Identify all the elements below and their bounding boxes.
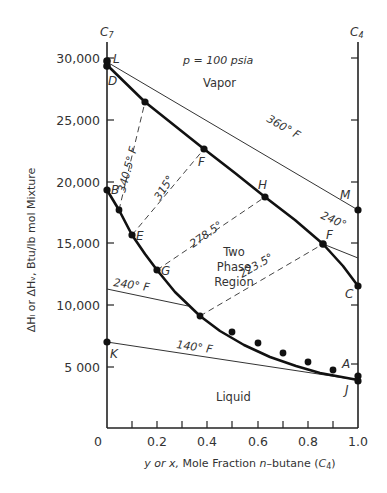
- label-J: J: [343, 383, 349, 397]
- label-L: L: [113, 52, 120, 66]
- tie-340-label: 340.5° F: [115, 145, 140, 194]
- y-tick-labels: 30,000 25,000 20,000 15,000 10,000 5 000: [56, 51, 100, 375]
- y-tick-5000: 5 000: [64, 360, 100, 375]
- label-F-right: F: [326, 228, 334, 242]
- point-liquid-0.8: [305, 359, 312, 366]
- label-M: M: [340, 188, 351, 202]
- label-C: C: [345, 287, 354, 301]
- left-ticks: [107, 58, 114, 367]
- liquid-region-label: Liquid: [216, 390, 251, 404]
- x-tick-0: 0: [94, 434, 102, 449]
- label-E: E: [136, 229, 144, 243]
- c4-axis-label: C4: [350, 25, 363, 40]
- x-tick-0.8: 0.8: [298, 434, 318, 449]
- x-tick-0.4: 0.4: [197, 434, 217, 449]
- y-tick-25000: 25,000: [56, 113, 100, 128]
- vapor-region-label: Vapor: [203, 76, 236, 90]
- x-tick-labels: 0 0.2 0.4 0.6 0.8 1.0: [94, 434, 368, 449]
- isotherm-240-vapor-label: 240°: [319, 209, 348, 232]
- point-K: [103, 338, 110, 345]
- x-tick-0.2: 0.2: [147, 434, 167, 449]
- point-liquid-0.7: [280, 350, 287, 357]
- y-tick-30000: 30,000: [56, 51, 100, 66]
- point-C: [354, 282, 361, 289]
- point-B: [103, 186, 110, 193]
- point-F-upper: [200, 145, 207, 152]
- bottom-ticks: [132, 421, 333, 428]
- x-tick-0.6: 0.6: [248, 434, 268, 449]
- isotherm-360-label: 360° F: [265, 112, 304, 142]
- point-liquid-0.9: [330, 367, 337, 374]
- point-liquid-223: [197, 313, 204, 320]
- point-G: [153, 266, 160, 273]
- point-M: [354, 206, 361, 213]
- x-tick-1.0: 1.0: [348, 434, 368, 449]
- point-E: [128, 231, 135, 238]
- point-vapor-340: [141, 98, 148, 105]
- label-K: K: [110, 347, 119, 361]
- point-liquid-0.5: [229, 329, 236, 336]
- enthalpy-composition-diagram: 30,000 25,000 20,000 15,000 10,000 5 000…: [0, 0, 387, 493]
- label-F-upper: F: [198, 155, 206, 169]
- point-liquid-340: [116, 207, 123, 214]
- tie-315-label: 315°: [152, 173, 177, 202]
- label-G: G: [161, 264, 170, 278]
- c7-axis-label: C7: [100, 25, 114, 40]
- tie-278-label: 278.5°: [187, 219, 225, 251]
- label-H: H: [258, 178, 267, 192]
- point-H: [261, 193, 268, 200]
- pressure-label: p = 100 psia: [182, 54, 253, 67]
- x-axis-title: y or x, Mole Fraction n–butane (C4): [143, 457, 335, 471]
- point-J: [354, 377, 361, 384]
- y-tick-15000: 15,000: [56, 236, 100, 251]
- point-D: [103, 62, 111, 70]
- y-axis-title: ΔHₗ or ΔHᵥ, Btu/lb mol Mixture: [25, 167, 38, 332]
- y-tick-20000: 20,000: [56, 175, 100, 190]
- label-D: D: [108, 74, 117, 88]
- label-A: A: [341, 357, 350, 371]
- y-tick-10000: 10,000: [56, 298, 100, 313]
- two-phase-label-1: Two: [222, 245, 245, 259]
- point-liquid-0.6: [255, 340, 262, 347]
